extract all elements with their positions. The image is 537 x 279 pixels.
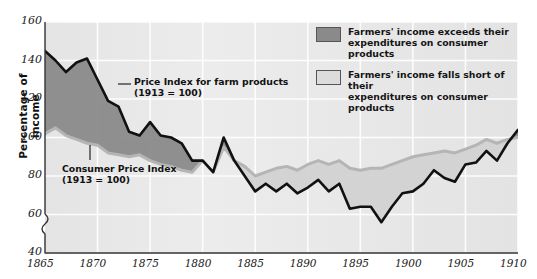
legend-label-income-falls-short: Farmers' income falls short of their exp… xyxy=(348,69,531,114)
y-axis-tick-label: 100 xyxy=(2,130,42,143)
annotation-farm-line2: (1913 = 100) xyxy=(134,87,288,98)
annotation-cpi-line1: Consumer Price Index xyxy=(62,163,176,174)
legend-label-income-exceeds: Farmers' income exceeds their expenditur… xyxy=(348,26,531,60)
annotation-farm-line1: Price Index for farm products xyxy=(134,76,288,87)
y-axis-tick-label: 120 xyxy=(2,91,42,104)
annotation-farm-price-index: Price Index for farm products (1913 = 10… xyxy=(134,76,288,99)
y-axis-tick-label: 160 xyxy=(2,14,42,27)
y-axis-tick-label: 80 xyxy=(2,168,42,181)
legend-swatch-dark xyxy=(316,27,341,42)
x-axis-tick-label: 1880 xyxy=(185,257,212,269)
legend-swatch-light xyxy=(316,70,341,85)
x-axis-tick-label: 1885 xyxy=(237,257,264,269)
chart-figure: Percentage of income 160140120100806040 … xyxy=(0,0,537,279)
legend-label-line1: Farmers' income exceeds their xyxy=(348,26,531,37)
x-axis-tick-label: 1895 xyxy=(342,257,369,269)
x-axis-tick-label: 1910 xyxy=(500,257,527,269)
annotation-consumer-price-index: Consumer Price Index (1913 = 100) xyxy=(62,163,176,186)
legend-item-income-falls-short: Farmers' income falls short of their exp… xyxy=(316,69,531,114)
x-axis-tick-label: 1890 xyxy=(290,257,317,269)
x-axis-tick-labels: 1865187018751880188518901895190019051910 xyxy=(0,257,537,277)
x-axis-tick-label: 1870 xyxy=(80,257,107,269)
x-axis-tick-label: 1905 xyxy=(447,257,474,269)
legend-label-line2: expenditures on consumer products xyxy=(348,91,531,113)
y-axis-tick-label: 60 xyxy=(2,207,42,220)
legend: Farmers' income exceeds their expenditur… xyxy=(316,26,531,122)
legend-label-line1: Farmers' income falls short of their xyxy=(348,69,531,91)
y-axis-tick-labels: 160140120100806040 xyxy=(0,0,42,279)
x-axis-tick-label: 1875 xyxy=(132,257,159,269)
legend-item-income-exceeds: Farmers' income exceeds their expenditur… xyxy=(316,26,531,60)
y-axis-tick-label: 140 xyxy=(2,53,42,66)
x-axis-tick-label: 1865 xyxy=(27,257,54,269)
legend-label-line2: expenditures on consumer products xyxy=(348,37,531,59)
x-axis-tick-label: 1900 xyxy=(395,257,422,269)
annotation-cpi-line2: (1913 = 100) xyxy=(62,174,176,185)
